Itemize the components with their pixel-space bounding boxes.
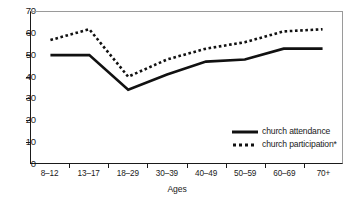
x-tick-label: 60–69 [273, 170, 295, 178]
x-tick-label: 30–39 [156, 170, 178, 178]
x-tick-mark [226, 164, 227, 168]
solid-line-swatch [232, 127, 258, 137]
legend-item-church-participation: church participation* [232, 138, 337, 151]
line-chart: 010203040506070 8–1213–1718–2930–3940–49… [0, 0, 354, 197]
x-tick-mark [69, 164, 70, 168]
x-tick-label: 13–17 [78, 170, 100, 178]
x-tick-label: 18–29 [117, 170, 139, 178]
chart-legend: church attendance church participation* [232, 125, 337, 151]
legend-label-church-participation: church participation* [262, 140, 337, 149]
x-tick-label: 8–12 [41, 170, 59, 178]
series-church-participation [50, 29, 322, 76]
x-tick-mark [304, 164, 305, 168]
x-tick-label: 40–49 [195, 170, 217, 178]
legend-label-church-attendance: church attendance [262, 127, 330, 136]
x-tick-mark [108, 164, 109, 168]
x-tick-mark [187, 164, 188, 168]
legend-item-church-attendance: church attendance [232, 125, 337, 138]
x-tick-mark [147, 164, 148, 168]
dotted-line-swatch [232, 140, 258, 150]
x-tick-label: 50–59 [234, 170, 256, 178]
x-tick-label: 70+ [317, 170, 331, 178]
x-axis-title: Ages [0, 184, 354, 194]
x-tick-mark [265, 164, 266, 168]
series-church-attendance [50, 49, 322, 90]
